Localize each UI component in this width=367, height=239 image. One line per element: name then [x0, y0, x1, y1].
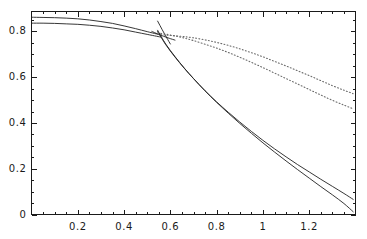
figure-canvas: 0.20.40.60.811.200.20.40.60.8: [0, 0, 367, 239]
y-tick-label: 0.8: [9, 26, 27, 36]
x-tick-label: 0.6: [161, 222, 179, 232]
x-tick-label: 1: [259, 222, 266, 232]
x-tick-label: 0.8: [208, 222, 226, 232]
plot-background: [0, 0, 367, 239]
y-tick-label: 0.6: [9, 72, 27, 82]
y-tick-label: 0: [20, 210, 27, 220]
y-tick-label: 0.2: [9, 164, 27, 174]
y-tick-label: 0.4: [9, 118, 27, 128]
x-tick-label: 1.2: [300, 222, 318, 232]
plot-svg: [0, 0, 367, 239]
x-tick-label: 0.4: [115, 222, 133, 232]
x-tick-label: 0.2: [69, 222, 87, 232]
